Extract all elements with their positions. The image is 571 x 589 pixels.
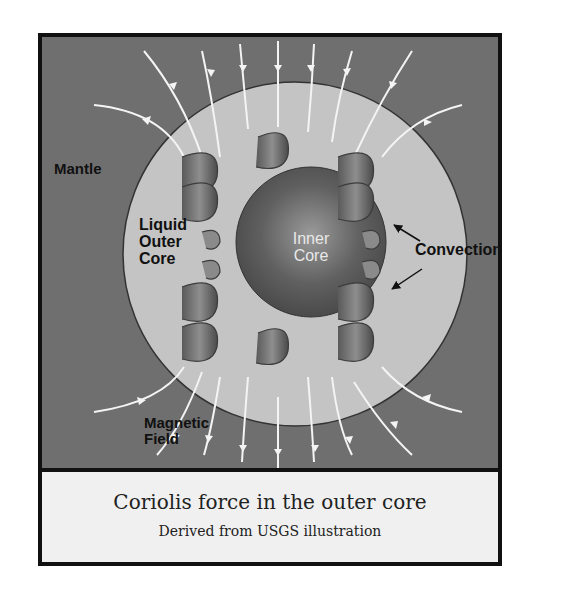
caption-title: Coriolis force in the outer core [42, 490, 498, 514]
earth-core-diagram: Mantle Liquid Outer Core Inner Core Conv… [42, 37, 498, 472]
label-magnetic-field: Magnetic Field [144, 415, 209, 447]
label-liquid-outer-core: Liquid Outer Core [139, 217, 187, 267]
caption-subtitle: Derived from USGS illustration [42, 523, 498, 539]
label-mantle: Mantle [54, 161, 102, 177]
label-inner-core: Inner Core [274, 231, 348, 265]
caption-box: Coriolis force in the outer core Derived… [42, 472, 498, 562]
figure-frame: Mantle Liquid Outer Core Inner Core Conv… [38, 33, 502, 566]
label-convection: Convection [415, 242, 498, 259]
